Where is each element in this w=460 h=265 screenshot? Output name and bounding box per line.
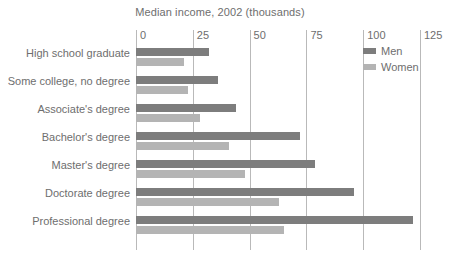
- category-label: High school graduate: [0, 47, 130, 59]
- category-label: Some college, no degree: [0, 75, 130, 87]
- legend-swatch-icon: [363, 48, 376, 54]
- chart-legend: MenWomen: [363, 44, 433, 76]
- category-label: Doctorate degree: [0, 187, 130, 199]
- category-label: Master's degree: [0, 159, 130, 171]
- legend-label: Men: [381, 45, 402, 57]
- category-label: Professional degree: [0, 215, 130, 227]
- chart-title: Median income, 2002 (thousands): [0, 6, 440, 18]
- bar-men: [136, 188, 354, 196]
- bar-men: [136, 216, 413, 224]
- legend-item-women: Women: [363, 60, 433, 74]
- category-axis: High school graduateSome college, no deg…: [0, 30, 130, 250]
- bar-women: [136, 142, 229, 150]
- legend-swatch-icon: [363, 64, 376, 70]
- bar-men: [136, 48, 209, 56]
- bar-men: [136, 76, 218, 84]
- bar-men: [136, 160, 315, 168]
- axis-tick-label: 125: [420, 29, 442, 41]
- bar-women: [136, 114, 200, 122]
- bar-men: [136, 132, 300, 140]
- category-label: Associate's degree: [0, 103, 130, 115]
- chart-container: Median income, 2002 (thousands) High sch…: [0, 0, 460, 265]
- bar-women: [136, 226, 284, 234]
- bar-women: [136, 198, 279, 206]
- legend-label: Women: [381, 61, 419, 73]
- bar-women: [136, 170, 245, 178]
- bar-women: [136, 86, 188, 94]
- legend-item-men: Men: [363, 44, 433, 58]
- bar-women: [136, 58, 184, 66]
- category-label: Bachelor's degree: [0, 131, 130, 143]
- bar-men: [136, 104, 236, 112]
